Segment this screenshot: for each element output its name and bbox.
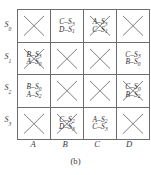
cell-s0-d[interactable]	[117, 10, 150, 43]
entry-next-state-subscript: 2	[105, 118, 108, 124]
entry-next-state-subscript: 1	[72, 28, 75, 34]
cell-s3-a[interactable]	[18, 107, 51, 140]
entry-next-state-subscript: 0	[39, 86, 42, 92]
row-label-subscript: 0	[9, 26, 12, 32]
transition-entries: A–S3C–S1	[84, 18, 116, 33]
row-label-s3: S3	[0, 104, 16, 136]
entry-next-state-subscript: 3	[138, 53, 141, 59]
transition-entry: D–S1	[51, 26, 83, 34]
cross-out-icon	[84, 75, 116, 107]
entry-next-state-subscript: 0	[138, 86, 141, 92]
cell-s1-a[interactable]: B–S3A–S0	[18, 42, 51, 75]
cross-out-icon	[117, 108, 149, 140]
transition-entries: C–S2D–S3	[51, 116, 83, 131]
entry-next-state-subscript: 2	[138, 93, 141, 99]
column-label-b: B	[49, 137, 81, 151]
table-row: B–S0A–S2C–S0B–S2	[18, 75, 150, 108]
row-label-subscript: 1	[9, 58, 12, 64]
row-label-s1: S1	[0, 41, 16, 73]
cell-s3-d[interactable]	[117, 107, 150, 140]
entry-next-state-subscript: 2	[72, 118, 75, 124]
row-label-s2: S2	[0, 72, 16, 104]
cell-s3-b[interactable]: C–S2D–S3	[51, 107, 84, 140]
entry-next-state-subscript: 3	[72, 21, 75, 27]
column-label-d: D	[113, 137, 145, 151]
transition-entries: A–S2C–S3	[84, 116, 116, 131]
state-transition-table: C–S3D–S1A–S3C–S1B–S3A–S0C–S3B–S0B–S0A–S2…	[17, 9, 145, 135]
table-row: C–S2D–S3A–S2C–S3	[18, 107, 150, 140]
entry-next-state-subscript: 2	[39, 93, 42, 99]
row-label-text: S1	[5, 52, 12, 61]
state-transition-figure: S0S1S2S3 C–S3D–S1A–S3C–S1B–S3A–S0C–S3B–S…	[0, 0, 151, 175]
transition-entries: B–S0A–S2	[18, 83, 50, 98]
cell-s1-b[interactable]	[51, 42, 84, 75]
transition-entry: C–S3	[84, 123, 116, 131]
cell-s2-c[interactable]	[84, 75, 117, 108]
cross-out-icon	[51, 75, 83, 107]
cross-out-icon	[18, 10, 50, 42]
cross-out-icon	[84, 43, 116, 75]
table-row: C–S3D–S1A–S3C–S1	[18, 10, 150, 43]
cell-s3-c[interactable]: A–S2C–S3	[84, 107, 117, 140]
cell-s1-c[interactable]	[84, 42, 117, 75]
row-label-text: S2	[5, 83, 12, 92]
cell-s1-d[interactable]: C–S3B–S0	[117, 42, 150, 75]
entry-next-state-subscript: 3	[105, 21, 108, 27]
transition-entry: A–S0	[18, 58, 50, 66]
entry-next-state-subscript: 0	[39, 61, 42, 67]
cell-s2-d[interactable]: C–S0B–S2	[117, 75, 150, 108]
transition-entry: C–S1	[84, 26, 116, 34]
transition-entries: C–S3B–S0	[117, 51, 149, 66]
transition-entry: A–S2	[18, 91, 50, 99]
row-label-subscript: 3	[9, 121, 12, 127]
transition-entries: B–S3A–S0	[18, 51, 50, 66]
cell-s2-a[interactable]: B–S0A–S2	[18, 75, 51, 108]
cell-s0-a[interactable]	[18, 10, 51, 43]
row-label-s0: S0	[0, 9, 16, 41]
entry-next-state-subscript: 3	[39, 53, 42, 59]
transition-entries: C–S0B–S2	[117, 83, 149, 98]
table-row: B–S3A–S0C–S3B–S0	[18, 42, 150, 75]
entry-next-state-subscript: 3	[105, 126, 108, 132]
cell-s0-c[interactable]: A–S3C–S1	[84, 10, 117, 43]
cell-s2-b[interactable]	[51, 75, 84, 108]
row-label-text: S3	[5, 115, 12, 124]
cross-out-icon	[117, 10, 149, 42]
row-label-subscript: 2	[9, 89, 12, 95]
entry-next-state-subscript: 0	[138, 61, 141, 67]
cell-s0-b[interactable]: C–S3D–S1	[51, 10, 84, 43]
cross-out-icon	[18, 108, 50, 140]
entry-next-state-subscript: 3	[72, 126, 75, 132]
transition-entry: D–S3	[51, 123, 83, 131]
column-label-a: A	[17, 137, 49, 151]
entry-next-state-subscript: 1	[105, 28, 108, 34]
transition-entry: B–S0	[117, 58, 149, 66]
row-label-text: S0	[5, 20, 12, 29]
transition-entry: B–S2	[117, 91, 149, 99]
grid: C–S3D–S1A–S3C–S1B–S3A–S0C–S3B–S0B–S0A–S2…	[17, 9, 150, 140]
figure-caption: (b)	[0, 156, 151, 166]
cross-out-icon	[51, 43, 83, 75]
transition-entries: C–S3D–S1	[51, 18, 83, 33]
column-label-c: C	[81, 137, 113, 151]
